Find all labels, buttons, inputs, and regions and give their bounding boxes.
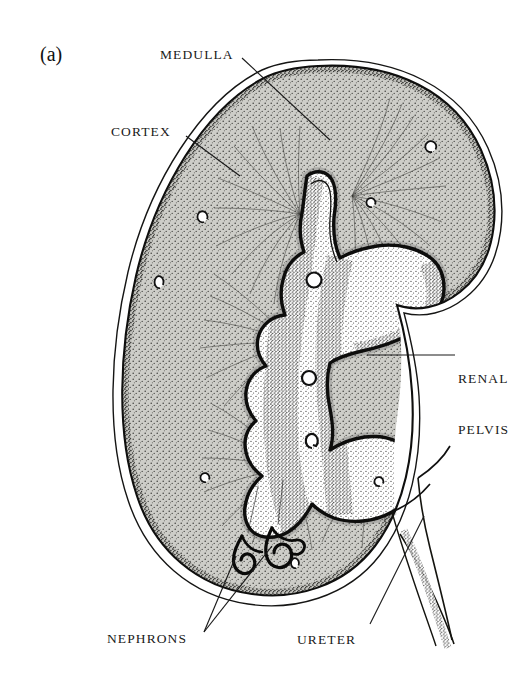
kidney-illustration: [0, 0, 531, 688]
label-nephrons: NEPHRONS: [107, 630, 187, 647]
renal-hilum: [394, 292, 467, 534]
label-ureter: URETER: [297, 631, 356, 648]
label-cortex: CORTEX: [111, 123, 171, 140]
label-renal-pelvis-line1: RENAL: [458, 370, 509, 387]
panel-letter: (a): [40, 43, 62, 66]
kidney-figure: (a) MEDULLA CORTEX RENAL PELVIS NEPHRONS…: [0, 0, 531, 688]
label-renal-pelvis-line2: PELVIS: [458, 421, 509, 438]
label-renal-pelvis: RENAL PELVIS: [458, 336, 509, 472]
label-medulla: MEDULLA: [160, 46, 234, 63]
